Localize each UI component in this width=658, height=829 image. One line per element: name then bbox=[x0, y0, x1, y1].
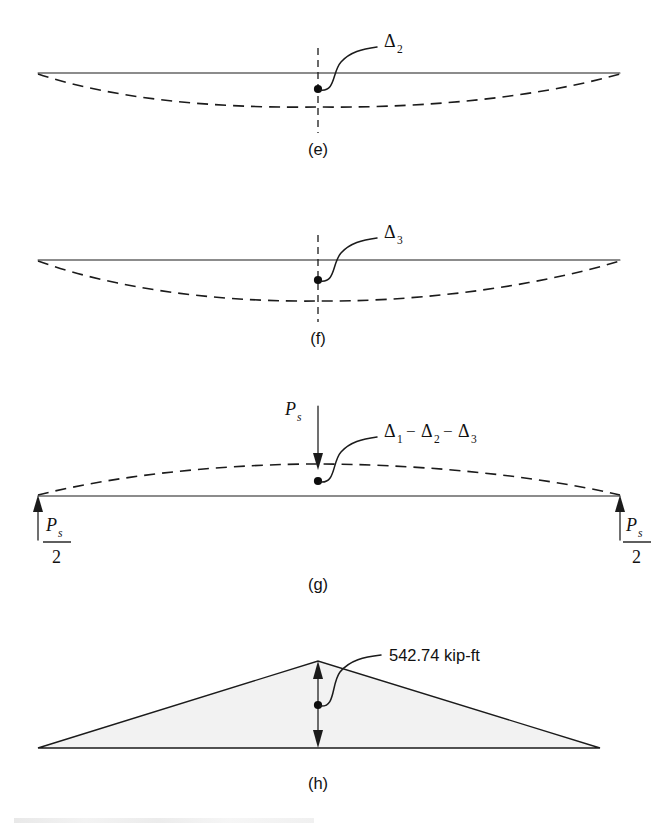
panel-e-deflected-shape bbox=[38, 74, 620, 107]
panel-g-delta2-symbol: Δ bbox=[421, 421, 433, 441]
panel-e-marker-dot bbox=[314, 85, 322, 93]
panel-e: Δ 2 (e) bbox=[38, 31, 620, 158]
panel-g-delta2-subscript: 2 bbox=[434, 433, 440, 445]
panel-h-tag: (h) bbox=[308, 774, 328, 792]
panel-g-right-reaction-head bbox=[615, 495, 625, 512]
panel-g-right-reaction-denominator: 2 bbox=[632, 547, 641, 567]
panel-g-left-reaction-denominator: 2 bbox=[52, 547, 61, 567]
panel-g-delta3-symbol: Δ bbox=[458, 421, 470, 441]
panel-f: Δ 3 (f) bbox=[38, 222, 620, 347]
panel-f-deflected-shape bbox=[38, 261, 620, 301]
panel-h-moment-label: 542.74 kip-ft bbox=[389, 646, 480, 664]
panel-g-left-reaction-head bbox=[33, 495, 43, 512]
panel-g: P s Δ 1 − Δ 2 − Δ 3 bbox=[33, 399, 651, 593]
panel-f-marker-dot bbox=[314, 276, 322, 284]
panel-g-callout-leader bbox=[320, 437, 377, 482]
panel-g-operator-2: − bbox=[443, 422, 453, 441]
panel-g-left-reaction: P s 2 bbox=[33, 495, 71, 567]
panel-g-right-reaction-symbol: P bbox=[625, 515, 637, 535]
panel-g-delta1-symbol: Δ bbox=[384, 421, 396, 441]
panel-g-load-symbol: P bbox=[284, 399, 296, 419]
panel-f-tag: (f) bbox=[310, 329, 326, 347]
panel-g-delta3-subscript: 3 bbox=[471, 433, 477, 445]
panel-g-left-reaction-subscript: s bbox=[58, 527, 63, 539]
panel-e-delta-symbol: Δ bbox=[384, 31, 396, 51]
panel-g-operator-1: − bbox=[406, 422, 416, 441]
page-edge-artifact bbox=[14, 818, 314, 823]
panel-g-applied-load: P s bbox=[284, 399, 323, 470]
panel-g-marker-dot bbox=[314, 477, 322, 485]
panel-g-left-reaction-symbol: P bbox=[45, 515, 57, 535]
panel-g-tag: (g) bbox=[308, 575, 328, 593]
panel-e-tag: (e) bbox=[308, 140, 328, 158]
panel-g-callout-expression: Δ 1 − Δ 2 − Δ 3 bbox=[384, 421, 477, 445]
panel-g-right-reaction: P s 2 bbox=[615, 495, 651, 567]
panel-e-callout-leader bbox=[320, 47, 377, 90]
panel-g-load-arrow-head bbox=[313, 453, 323, 470]
figure-root: Δ 2 (e) Δ 3 (f) P s bbox=[0, 0, 658, 829]
panel-e-delta-subscript: 2 bbox=[397, 43, 403, 55]
panel-g-right-reaction-subscript: s bbox=[638, 527, 643, 539]
panel-g-load-subscript: s bbox=[297, 411, 302, 423]
panel-h: 542.74 kip-ft (h) bbox=[38, 646, 600, 792]
panel-f-delta-subscript: 3 bbox=[397, 234, 403, 246]
panel-f-delta-symbol: Δ bbox=[384, 222, 396, 242]
panel-h-marker-dot bbox=[314, 701, 322, 709]
beam-diagram-svg: Δ 2 (e) Δ 3 (f) P s bbox=[0, 0, 658, 829]
panel-g-delta1-subscript: 1 bbox=[397, 433, 403, 445]
